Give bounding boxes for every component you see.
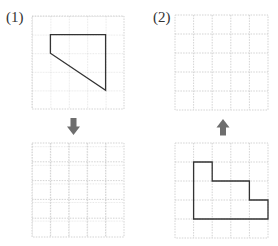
- arrow-down-icon: [67, 118, 80, 135]
- grid-1-bottom: [32, 143, 124, 237]
- arrow-up-icon: [217, 119, 230, 136]
- grid-1-top: [32, 16, 124, 109]
- grid-2-top: [175, 15, 268, 110]
- grid-2-bottom: [175, 143, 268, 238]
- diagram-canvas: [0, 0, 278, 246]
